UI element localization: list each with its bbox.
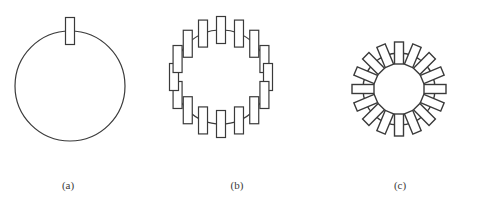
panel-b-rect	[234, 20, 243, 47]
panel-b-rect	[217, 111, 226, 138]
panel-b-rect	[199, 20, 208, 47]
figure-container: (a)(b)(c)	[0, 0, 477, 207]
panel-c-caption: (c)	[394, 179, 407, 192]
panel-c-rect	[395, 42, 404, 64]
panel-b-rect	[217, 17, 226, 44]
panel-a-rect-group	[66, 18, 75, 45]
figure-svg: (a)(b)(c)	[0, 0, 477, 207]
panel-b-rect	[234, 107, 243, 134]
panel-b-rect	[183, 97, 192, 124]
panel-b-rect	[183, 30, 192, 57]
panel-b-rect	[260, 81, 269, 108]
panel-b-rect	[250, 30, 259, 57]
panel-b-caption: (b)	[231, 179, 244, 192]
panel-c-rect	[352, 85, 374, 94]
panel-b-rect	[199, 107, 208, 134]
panel-b-rect	[250, 97, 259, 124]
panel-c-rect	[424, 85, 446, 94]
panel-a-caption: (a)	[62, 179, 75, 192]
panel-b-rect	[173, 46, 182, 73]
panel-c-rect	[395, 114, 404, 136]
panel-a-rect	[66, 18, 75, 45]
